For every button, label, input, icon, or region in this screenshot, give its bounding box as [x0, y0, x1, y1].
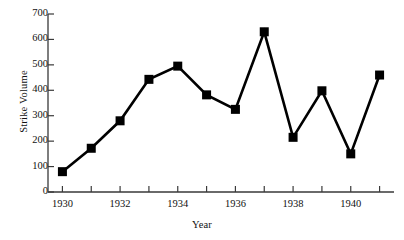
- data-point-marker: [375, 71, 384, 80]
- data-line: [62, 32, 379, 172]
- data-point-marker: [231, 105, 240, 114]
- data-point-marker: [87, 144, 96, 153]
- data-point-marker: [58, 167, 67, 176]
- data-point-marker: [173, 62, 182, 71]
- data-point-marker: [317, 86, 326, 95]
- plot-area: [0, 0, 404, 240]
- data-point-marker: [260, 27, 269, 36]
- data-point-marker: [346, 149, 355, 158]
- data-point-marker: [144, 75, 153, 84]
- data-point-marker: [289, 133, 298, 142]
- line-chart: Strike Volume Year 010020030040050060070…: [0, 0, 404, 240]
- data-point-marker: [116, 116, 125, 125]
- data-point-marker: [202, 90, 211, 99]
